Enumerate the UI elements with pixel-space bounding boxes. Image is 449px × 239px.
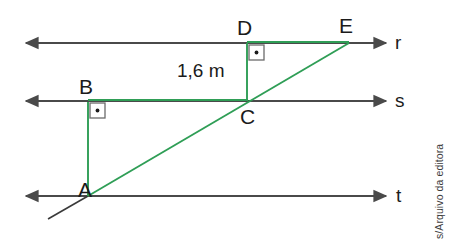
right-angle-marker-D bbox=[249, 45, 264, 60]
point-label-B: B bbox=[79, 76, 93, 97]
line-label-r: r bbox=[395, 33, 401, 52]
measurement-label-cd: 1,6 m bbox=[177, 61, 225, 80]
image-credit: Banco de imagens/Arquivo da editora bbox=[430, 0, 448, 239]
line-label-s: s bbox=[395, 91, 405, 110]
point-label-C: C bbox=[240, 106, 255, 127]
geometry-diagram bbox=[0, 0, 449, 239]
point-label-E: E bbox=[339, 15, 353, 36]
figure-canvas: A B C D E r s t 1,6 m Banco de imagens/A… bbox=[0, 0, 449, 239]
image-credit-text: Banco de imagens/Arquivo da editora bbox=[433, 144, 445, 239]
point-label-A: A bbox=[78, 179, 92, 200]
line-label-t: t bbox=[396, 186, 401, 205]
point-label-D: D bbox=[237, 17, 252, 38]
right-angle-marker-B bbox=[90, 103, 105, 118]
